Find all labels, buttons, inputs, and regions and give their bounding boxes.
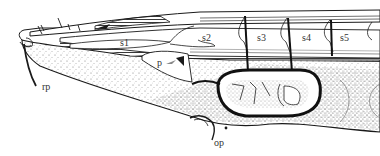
label-s1: s1 (120, 37, 129, 48)
label-rp: rp (42, 81, 50, 92)
label-s5: s5 (340, 32, 349, 43)
label-s2: s2 (202, 32, 211, 43)
label-s4: s4 (302, 32, 311, 43)
label-p: p (157, 57, 162, 68)
label-op: op (214, 137, 224, 148)
anatomical-illustration: s1 s2 s3 s4 s5 p rp op (0, 0, 380, 156)
label-s3: s3 (257, 32, 266, 43)
